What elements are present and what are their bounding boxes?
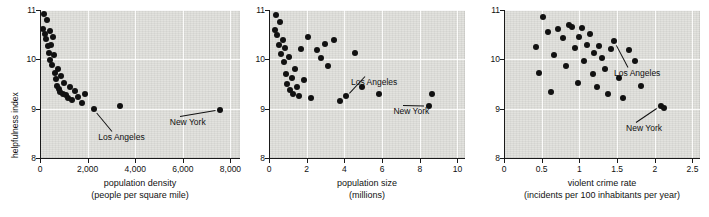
data-point (632, 58, 638, 64)
x-tick-label: 2.5 (687, 164, 699, 174)
y-tick-label: 11 (24, 5, 36, 15)
data-point (569, 24, 575, 30)
gridline-horizontal (269, 59, 465, 60)
data-point (277, 19, 283, 25)
data-point (217, 107, 223, 113)
x-tick-label: 1.5 (611, 164, 623, 174)
x-tick-label: 6,000 (172, 164, 193, 174)
plot-area: Los AngelesNew York (40, 10, 240, 158)
gridline-horizontal (269, 10, 465, 11)
data-point (590, 71, 596, 77)
x-tick (382, 159, 383, 163)
data-point (545, 29, 551, 35)
data-point (58, 73, 64, 79)
x-axis-title: population size (269, 178, 465, 188)
data-point (602, 66, 608, 72)
y-tick (36, 158, 40, 159)
data-point (576, 34, 582, 40)
x-tick-label: 6 (380, 164, 385, 174)
x-tick (269, 159, 270, 163)
gridline-horizontal (269, 109, 465, 110)
x-tick (420, 159, 421, 163)
x-tick (183, 159, 184, 163)
gridline-horizontal (40, 109, 240, 110)
gridline-vertical (457, 10, 458, 158)
data-point (661, 105, 667, 111)
data-point (280, 37, 286, 43)
x-axis-title: violent crime rate (504, 178, 700, 188)
data-point (294, 84, 300, 90)
chart-panel-violent-crime-rate: Los AngelesNew York00.511.522.5891011vio… (480, 0, 709, 217)
x-tick-label: 2 (304, 164, 309, 174)
x-tick-label: 1 (577, 164, 582, 174)
gridline-vertical (420, 10, 421, 158)
data-point (584, 42, 590, 48)
y-tick (500, 10, 504, 11)
x-tick-label: 0 (502, 164, 507, 174)
y-tick-label: 10 (488, 54, 500, 64)
gridline-vertical (344, 10, 345, 158)
x-axis-subtitle: (millions) (249, 190, 485, 200)
x-tick-label: 0.5 (536, 164, 548, 174)
gridline-vertical (88, 10, 89, 158)
x-tick (40, 159, 41, 163)
data-point (620, 95, 626, 101)
y-tick-label: 11 (253, 5, 265, 15)
gridline-vertical (655, 10, 656, 158)
y-axis-line (504, 10, 505, 158)
y-tick-label: 10 (24, 54, 36, 64)
data-point (337, 98, 343, 104)
data-point (331, 37, 337, 43)
y-axis-line (269, 10, 270, 158)
data-point (572, 45, 578, 51)
x-tick-label: 4,000 (125, 164, 146, 174)
data-point (429, 91, 435, 97)
data-point (563, 63, 569, 69)
data-point (314, 47, 320, 53)
data-point (117, 103, 123, 109)
data-point (308, 95, 314, 101)
y-tick-label: 10 (253, 54, 265, 64)
annotation-label: Los Angeles (98, 132, 144, 142)
y-tick (265, 10, 269, 11)
data-point (44, 17, 50, 23)
data-point (575, 80, 581, 86)
y-tick (36, 10, 40, 11)
x-tick (307, 159, 308, 163)
y-axis-title: helpfulness index (10, 92, 20, 158)
y-tick-label: 8 (253, 153, 265, 163)
data-point (274, 32, 280, 38)
data-point (301, 77, 307, 83)
annotation-label: New York (626, 123, 662, 133)
data-point (286, 54, 292, 60)
data-point (591, 50, 597, 56)
data-point (322, 41, 328, 47)
data-point (55, 66, 61, 72)
annotation-leader-line (636, 109, 657, 124)
gridline-horizontal (40, 10, 240, 11)
x-tick (457, 159, 458, 163)
gridline-vertical (542, 10, 543, 158)
figure: Los AngelesNew York02,0004,0006,0008,000… (0, 0, 709, 217)
y-tick (265, 59, 269, 60)
annotation-leader-line (96, 113, 112, 132)
annotation-label: New York (170, 117, 206, 127)
x-axis-title: population density (40, 178, 240, 188)
x-tick (135, 159, 136, 163)
data-point (548, 89, 554, 95)
x-axis-line (269, 158, 465, 159)
x-axis-line (40, 158, 240, 159)
data-point (79, 100, 85, 106)
x-tick (655, 159, 656, 163)
data-point (91, 106, 97, 112)
data-point (579, 25, 585, 31)
gridline-horizontal (504, 10, 700, 11)
x-axis-subtitle: (incidents per 100 inhabitants per year) (484, 190, 709, 200)
data-point (75, 94, 81, 100)
data-point (352, 50, 358, 56)
y-tick-label: 9 (253, 104, 265, 114)
data-point (638, 83, 644, 89)
data-point (596, 43, 602, 49)
x-tick (230, 159, 231, 163)
y-tick-label: 8 (24, 153, 36, 163)
